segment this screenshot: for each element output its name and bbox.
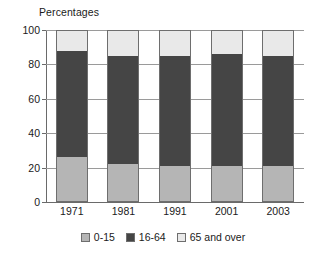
x-tick-label-2003: 2003 [254,205,302,217]
bar-segment[interactable] [159,56,191,166]
chart-title: Percentages [39,6,99,18]
legend-item[interactable]: 0-15 [81,231,115,243]
bar-segment[interactable] [107,56,139,164]
stacked-bar-chart: Percentages 020406080100 197119811991200… [0,0,326,262]
bar-segment[interactable] [211,30,243,54]
bar-segment[interactable] [107,30,139,56]
bar-group[interactable] [56,30,88,202]
bar-segment[interactable] [211,54,243,166]
bar-segment[interactable] [262,166,294,202]
x-tick-label-2001: 2001 [203,205,251,217]
x-tick-label-1981: 1981 [99,205,147,217]
legend-swatch-icon [177,233,186,242]
legend-label: 16-64 [139,231,166,243]
bar-segment[interactable] [211,166,243,202]
legend-swatch-icon [81,233,90,242]
bar-segment[interactable] [56,30,88,51]
x-axis-tick-labels: 19711981199120012003 [46,205,304,221]
legend-label: 0-15 [94,231,115,243]
legend-item[interactable]: 65 and over [177,231,245,243]
x-tick-label-1991: 1991 [151,205,199,217]
legend-label: 65 and over [190,231,245,243]
bar-group[interactable] [211,30,243,202]
bar-group[interactable] [159,30,191,202]
bar-segment[interactable] [56,51,88,158]
plot-area [46,30,304,202]
legend-item[interactable]: 16-64 [126,231,166,243]
bars-layer [46,30,304,202]
bar-group[interactable] [107,30,139,202]
chart-legend: 0-1516-6465 and over [0,231,326,243]
y-tick-label-0: 0 [2,197,40,207]
bar-group[interactable] [262,30,294,202]
bar-segment[interactable] [56,157,88,202]
y-tick-label-20: 20 [2,163,40,173]
bar-segment[interactable] [262,30,294,56]
bar-segment[interactable] [262,56,294,166]
bar-segment[interactable] [107,164,139,202]
gridline-0 [46,202,304,203]
y-tick-mark-0 [42,202,46,203]
y-tick-label-60: 60 [2,94,40,104]
bar-segment[interactable] [159,30,191,56]
legend-swatch-icon [126,233,135,242]
bar-segment[interactable] [159,166,191,202]
x-tick-label-1971: 1971 [48,205,96,217]
y-tick-label-100: 100 [2,25,40,35]
y-tick-label-80: 80 [2,59,40,69]
y-tick-label-40: 40 [2,128,40,138]
